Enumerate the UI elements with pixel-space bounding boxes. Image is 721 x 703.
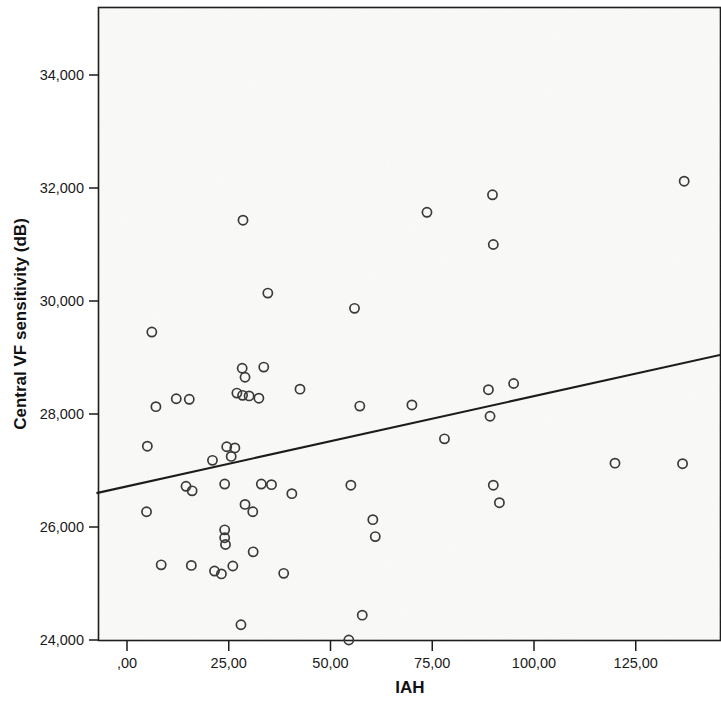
x-axis-title: IAH [395, 678, 424, 697]
y-tick-label: 24,000 [40, 632, 84, 648]
x-tick-label: 125,00 [614, 655, 658, 671]
scatter-plot-figure: 24,00026,00028,00030,00032,00034,000 ,00… [0, 0, 721, 703]
x-tick-label: 25,00 [211, 655, 247, 671]
plot-canvas: 24,00026,00028,00030,00032,00034,000 ,00… [0, 0, 721, 703]
x-tick-label: 100,00 [512, 655, 556, 671]
paper-texture [99, 8, 721, 641]
y-tick-label: 26,000 [40, 519, 84, 535]
y-tick-label: 32,000 [40, 180, 84, 196]
y-tick-label: 28,000 [40, 406, 84, 422]
y-axis-title: Central VF sensitivity (dB) [11, 218, 30, 430]
x-tick-label: 75,00 [414, 655, 450, 671]
x-tick-label: ,00 [117, 655, 137, 671]
y-tick-label: 34,000 [40, 67, 84, 83]
x-tick-label: 50,00 [312, 655, 348, 671]
y-tick-label: 30,000 [40, 293, 84, 309]
